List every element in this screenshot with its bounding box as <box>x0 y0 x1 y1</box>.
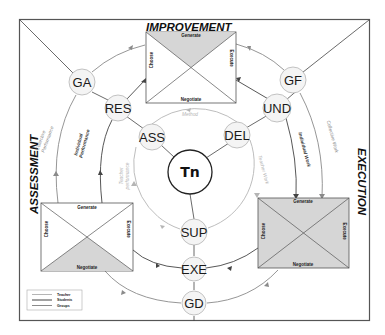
svg-text:UND: UND <box>263 101 291 116</box>
node-center-tn[interactable]: Tn <box>168 150 212 194</box>
improvement-choose-label: Choose <box>149 51 154 68</box>
svg-text:GD: GD <box>184 296 204 311</box>
assessment-generate-label: Generate <box>77 205 97 210</box>
svg-text:RES: RES <box>105 101 132 116</box>
improvement-generate-label: Generate <box>181 33 201 38</box>
svg-text:GA: GA <box>73 75 92 90</box>
execution-execute-label: Execute <box>342 222 347 240</box>
legend-label-students: Students <box>57 298 72 302</box>
phase-title-execution: EXECUTION <box>356 148 368 216</box>
cycle-diagram: Generate Negotiate Choose Execute Genera… <box>0 0 385 335</box>
legend-label-groups: Groups <box>57 304 70 308</box>
improvement-box: Generate Negotiate Choose Execute <box>146 32 236 103</box>
svg-text:GF: GF <box>284 73 302 88</box>
assessment-box: Generate Negotiate Choose Execute <box>41 203 133 271</box>
legend-label-teacher: Teacher <box>57 293 71 297</box>
node-res[interactable]: RES <box>105 95 132 121</box>
node-sup[interactable]: SUP <box>181 219 208 245</box>
assessment-negotiate-label: Negotiate <box>77 265 98 270</box>
assessment-choose-label: Choose <box>44 220 49 237</box>
improvement-execute-label: Execute <box>229 49 234 67</box>
execution-negotiate-label: Negotiate <box>293 262 314 267</box>
node-del[interactable]: DEL <box>224 122 250 148</box>
phase-title-improvement: IMPROVEMENT <box>146 21 233 33</box>
legend: Teacher Students Groups <box>27 290 82 310</box>
node-ass[interactable]: ASS <box>139 124 165 150</box>
arc-label-teacher-performance-2: performance <box>125 162 130 190</box>
arc-label-teacher-performance-1: Teacher <box>119 167 124 185</box>
arc-label-method: Method <box>182 112 198 117</box>
svg-text:SUP: SUP <box>181 225 208 240</box>
improvement-negotiate-label: Negotiate <box>181 97 202 102</box>
execution-generate-label: Generate <box>293 199 313 204</box>
svg-text:EXE: EXE <box>181 262 207 277</box>
node-und[interactable]: UND <box>263 94 291 122</box>
svg-text:Tn: Tn <box>180 164 200 180</box>
execution-choose-label: Choose <box>261 222 266 239</box>
svg-text:DEL: DEL <box>224 128 249 143</box>
node-gd[interactable]: GD <box>182 291 206 315</box>
svg-text:ASS: ASS <box>139 130 165 145</box>
assessment-execute-label: Execute <box>126 220 131 238</box>
node-gf[interactable]: GF <box>280 67 306 93</box>
node-ga[interactable]: GA <box>69 69 95 95</box>
execution-box: Generate Negotiate Choose Execute <box>258 198 349 268</box>
